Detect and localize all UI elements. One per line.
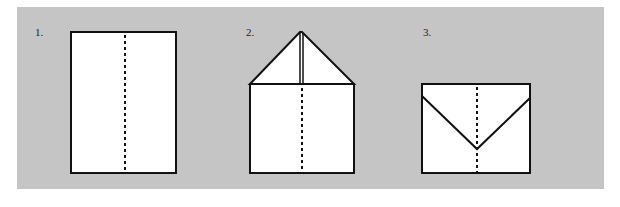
step-3-figure (422, 84, 530, 173)
step-1-figure (71, 32, 176, 173)
folding-figures (0, 0, 620, 207)
step-2-figure (250, 32, 354, 173)
